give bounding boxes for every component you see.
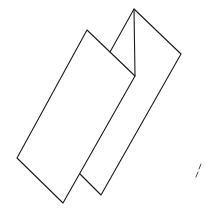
- diagram-svg: [0, 0, 205, 221]
- folded-leaflet-diagram: [0, 0, 205, 221]
- dash-mark-icon: [196, 172, 198, 177]
- back-panel-outline: [80, 9, 181, 195]
- center-crease-line: [134, 9, 135, 76]
- dash-mark-icon: [199, 164, 201, 169]
- front-panel-outline: [17, 30, 135, 203]
